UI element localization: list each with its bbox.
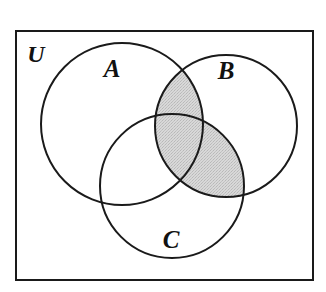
universal-set-label: U	[27, 41, 46, 67]
venn-diagram-canvas: U A B C	[0, 0, 326, 292]
venn-diagram-figure: U A B C	[0, 0, 326, 292]
set-b-label: B	[217, 57, 235, 84]
set-a-label: A	[102, 55, 121, 82]
set-c-label: C	[163, 226, 180, 253]
